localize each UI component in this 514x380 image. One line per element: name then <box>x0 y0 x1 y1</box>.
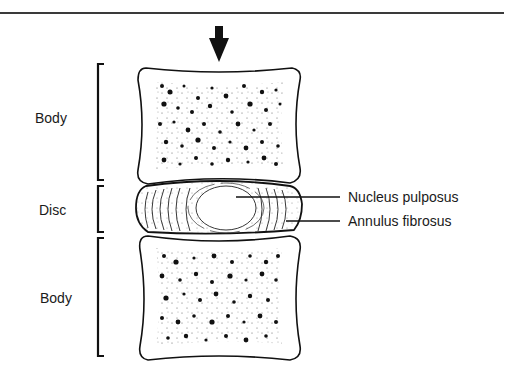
intervertebral-disc <box>136 181 302 234</box>
label-lower-body: Body <box>40 290 72 306</box>
disc-bracket <box>98 186 104 232</box>
label-annulus-fibrosus: Annulus fibrosus <box>348 213 452 229</box>
upper-body-bracket <box>98 64 104 180</box>
label-disc: Disc <box>39 202 66 218</box>
upper-vertebral-body <box>138 68 301 184</box>
label-nucleus-pulposus: Nucleus pulposus <box>348 189 459 205</box>
lower-body-bracket <box>98 238 104 356</box>
region-brackets <box>98 64 104 356</box>
nucleus-pulposus <box>196 186 256 230</box>
label-upper-body: Body <box>35 110 67 126</box>
compression-arrow-icon <box>209 26 229 62</box>
lower-vertebral-body <box>140 236 301 360</box>
